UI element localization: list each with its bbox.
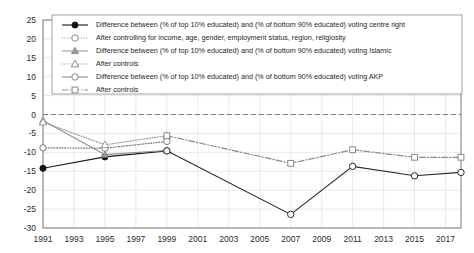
x-tick-label: 2017 (436, 234, 455, 244)
series-akp_controls (164, 133, 464, 166)
x-tick-label: 2015 (405, 234, 424, 244)
y-tick-label: 5 (31, 91, 36, 101)
data-point-marker (72, 74, 78, 80)
data-point-marker (288, 160, 294, 166)
x-tick-label: 2001 (188, 234, 207, 244)
data-point-marker (72, 22, 78, 28)
y-tick-label: 25 (27, 15, 37, 25)
data-point-marker (412, 154, 418, 160)
data-point-marker (72, 87, 78, 93)
legend-item[interactable]: After controls (62, 85, 139, 94)
data-point-marker (458, 154, 464, 160)
y-tick-label: 0 (31, 110, 36, 120)
x-tick-label: 1995 (95, 234, 114, 244)
legend-item[interactable]: After controlling for income, age, gende… (62, 33, 346, 42)
data-point-marker (164, 148, 170, 154)
y-tick-label: -5 (28, 128, 36, 138)
x-axis-labels: 1991199319951997199920012003200520072009… (34, 234, 456, 244)
chart-container: 2520151050-5-10-15-20-25-301991199319951… (0, 0, 474, 253)
y-tick-label: -30 (24, 223, 37, 233)
education-voting-gap-line-chart: 2520151050-5-10-15-20-25-301991199319951… (0, 0, 474, 253)
legend-item-label: Difference between (% of top 10% educate… (96, 46, 392, 55)
x-tick-label: 2009 (312, 234, 331, 244)
data-point-marker (164, 133, 170, 139)
x-tick-label: 2003 (219, 234, 238, 244)
data-point-marker (72, 35, 78, 41)
y-tick-label: 20 (27, 34, 37, 44)
x-tick-label: 2005 (250, 234, 269, 244)
legend-item-label: After controlling for income, age, gende… (96, 33, 346, 42)
x-tick-label: 2011 (343, 234, 362, 244)
data-point-marker (164, 138, 170, 144)
y-tick-label: 10 (27, 72, 37, 82)
legend-item[interactable]: Difference between (% of top 10% educate… (62, 46, 392, 55)
y-tick-label: -25 (24, 204, 37, 214)
data-point-marker (40, 165, 46, 171)
y-axis-labels: 2520151050-5-10-15-20-25-30 (24, 15, 37, 233)
data-point-marker (458, 169, 464, 175)
x-tick-label: 1991 (34, 234, 53, 244)
x-tick-label: 1997 (126, 234, 145, 244)
legend-item-label: After controls (96, 59, 139, 68)
x-tick-label: 2007 (281, 234, 300, 244)
legend-item-label: Difference between (% of top 10% educate… (96, 72, 383, 81)
x-tick-label: 1993 (64, 234, 83, 244)
legend-item[interactable]: Difference between (% of top 10% educate… (62, 20, 405, 29)
legend-item[interactable]: Difference between (% of top 10% educate… (62, 72, 383, 81)
legend-item-label: Difference between (% of top 10% educate… (96, 20, 405, 29)
chart-legend: Difference between (% of top 10% educate… (52, 15, 462, 94)
data-point-marker (411, 173, 417, 179)
x-tick-label: 1999 (157, 234, 176, 244)
legend-item-label: After controls (96, 85, 139, 94)
y-tick-label: -15 (24, 166, 37, 176)
y-tick-label: -20 (24, 185, 37, 195)
data-point-marker (350, 147, 356, 153)
data-point-marker (288, 211, 294, 217)
x-tick-label: 2013 (374, 234, 393, 244)
data-point-marker (40, 145, 46, 151)
y-tick-label: 15 (27, 53, 37, 63)
y-tick-label: -10 (24, 147, 37, 157)
data-point-marker (349, 163, 355, 169)
